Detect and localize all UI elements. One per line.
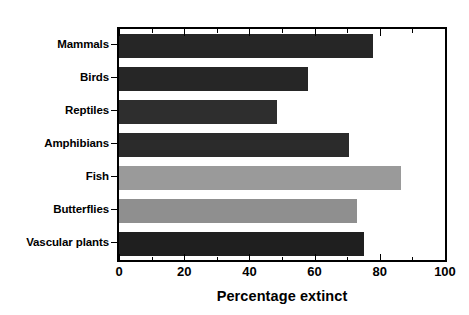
category-label-mammals: Mammals (0, 38, 109, 50)
x-tick-label: 80 (360, 264, 400, 279)
x-tick-major (119, 254, 120, 261)
category-label-reptiles: Reptiles (0, 104, 109, 116)
x-tick-label: 0 (99, 264, 139, 279)
category-tick (111, 110, 117, 111)
category-tick (111, 77, 117, 78)
category-tick (111, 176, 117, 177)
category-label-amphibians: Amphibians (0, 137, 109, 149)
bars-layer (119, 29, 445, 260)
x-tick-major (315, 254, 316, 261)
bar-vascular-plants (119, 232, 364, 256)
category-label-butterflies: Butterflies (0, 203, 109, 215)
x-tick-label: 20 (164, 264, 204, 279)
plot-area (117, 27, 447, 262)
x-tick-top (347, 29, 348, 33)
x-tick-top (282, 29, 283, 33)
x-tick-major (184, 254, 185, 261)
x-axis-title: Percentage extinct (117, 288, 447, 304)
x-tick-top (315, 29, 316, 36)
category-label-fish: Fish (0, 170, 109, 182)
category-tick (111, 209, 117, 210)
x-tick-minor (412, 257, 413, 261)
x-tick-label: 40 (229, 264, 269, 279)
x-tick-minor (217, 257, 218, 261)
x-tick-label: 60 (295, 264, 335, 279)
bar-mammals (119, 34, 373, 58)
x-tick-major (445, 254, 446, 261)
x-tick-major (249, 254, 250, 261)
x-tick-major (380, 254, 381, 261)
bar-row (119, 232, 445, 256)
x-tick-minor (282, 257, 283, 261)
category-tick (111, 242, 117, 243)
category-label-vascular-plants: Vascular plants (0, 236, 109, 248)
x-tick-top (380, 29, 381, 36)
x-tick-top (184, 29, 185, 36)
bar-amphibians (119, 133, 349, 157)
category-tick (111, 143, 117, 144)
bar-row (119, 133, 445, 157)
category-tick (111, 44, 117, 45)
x-tick-top (249, 29, 250, 36)
x-tick-top (412, 29, 413, 33)
x-tick-top (119, 29, 120, 36)
x-tick-top (152, 29, 153, 33)
x-tick-minor (152, 257, 153, 261)
bar-row (119, 67, 445, 91)
bar-row (119, 100, 445, 124)
bar-reptiles (119, 100, 277, 124)
bar-row (119, 199, 445, 223)
bar-row (119, 34, 445, 58)
bar-birds (119, 67, 308, 91)
x-tick-label: 100 (425, 264, 465, 279)
bar-butterflies (119, 199, 357, 223)
bar-row (119, 166, 445, 190)
x-tick-top (445, 29, 446, 36)
bar-fish (119, 166, 401, 190)
category-label-birds: Birds (0, 71, 109, 83)
x-tick-top (217, 29, 218, 33)
x-tick-minor (347, 257, 348, 261)
extinction-bar-chart: MammalsBirdsReptilesAmphibiansFishButter… (0, 0, 469, 315)
